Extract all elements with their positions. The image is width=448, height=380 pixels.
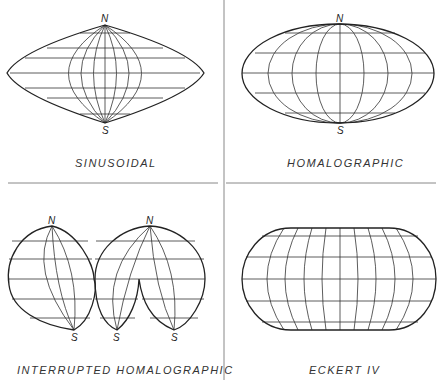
map-projections-diagram: N S SINUSOIDAL N S HOMALOGRAPHIC xyxy=(0,0,448,380)
south-pole-label: S xyxy=(102,125,109,136)
south-pole-label: S xyxy=(337,125,344,136)
homalographic-map: N S HOMALOGRAPHIC xyxy=(242,13,434,169)
north-pole-label-right: N xyxy=(146,215,154,226)
north-pole-label: N xyxy=(101,13,109,24)
south-pole-label-1: S xyxy=(71,332,78,343)
north-pole-label-left: N xyxy=(48,215,56,226)
north-pole-label: N xyxy=(336,13,344,24)
eckert-iv-label: ECKERT IV xyxy=(309,364,381,376)
interrupted-homalographic-map: N N S S S INTERRUPTED HOMALOGRAPHIC xyxy=(8,215,234,376)
eckert-iv-map: ECKERT IV xyxy=(242,228,436,376)
south-pole-label-3: S xyxy=(171,332,178,343)
homalographic-label: HOMALOGRAPHIC xyxy=(287,157,404,169)
interrupted-homalographic-label: INTERRUPTED HOMALOGRAPHIC xyxy=(17,364,234,376)
sinusoidal-map: N S SINUSOIDAL xyxy=(7,13,204,169)
sinusoidal-label: SINUSOIDAL xyxy=(75,157,157,169)
south-pole-label-2: S xyxy=(113,332,120,343)
